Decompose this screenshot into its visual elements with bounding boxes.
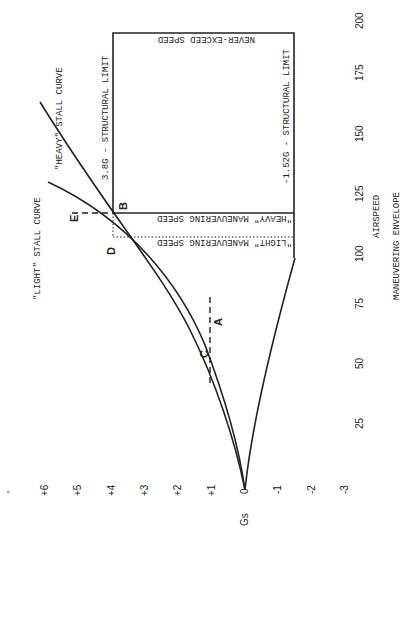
point-b-label: B — [117, 202, 129, 210]
stray-mark: ' — [6, 491, 17, 493]
g-tick: -2 — [306, 485, 317, 494]
never-exceed-speed-label: NEVER-EXCEED SPEED — [158, 34, 255, 44]
g-tick: 0 — [239, 488, 250, 494]
airspeed-tick: 150 — [354, 125, 365, 142]
heavy-maneuvering-speed-label: "HEAVY" MANEUVERING SPEED — [157, 213, 292, 223]
g-tick: +2 — [172, 484, 183, 496]
positive-structural-limit-label: 3.8G - STRUCTURAL LIMIT — [101, 55, 111, 180]
g-axis-label: Gs — [239, 513, 250, 526]
g-tick: +3 — [139, 484, 150, 496]
airspeed-tick: 175 — [354, 64, 365, 81]
maneuvering-envelope-chart: A B C D E "LIGHT" STALL CURVE "HEAVY" ST… — [0, 0, 407, 620]
g-tick: -3 — [339, 485, 350, 494]
point-e-label: E — [68, 215, 80, 222]
airspeed-tick: 50 — [354, 357, 365, 369]
airspeed-tick: 125 — [354, 185, 365, 202]
g-tick: +6 — [39, 484, 50, 496]
airspeed-axis-label: AIRSPEED — [372, 195, 382, 238]
light-maneuvering-speed-label: "LIGHT" MANEUVERING SPEED — [157, 237, 292, 247]
light-stall-curve — [40, 102, 245, 490]
heavy-stall-curve — [48, 182, 245, 490]
point-a-label: A — [212, 318, 224, 326]
airspeed-tick: 200 — [354, 12, 365, 29]
airspeed-tick: 25 — [354, 417, 365, 429]
point-d-label: D — [105, 247, 117, 255]
chart-title: MANEUVERING ENVELOPE — [392, 192, 402, 300]
envelope-boundary — [113, 33, 294, 258]
airspeed-tick: 75 — [354, 297, 365, 309]
point-c-label: C — [198, 350, 210, 358]
g-tick: -1 — [272, 485, 283, 494]
g-tick: +4 — [106, 484, 117, 496]
g-tick: +1 — [206, 484, 217, 496]
light-stall-curve-label: "LIGHT" STALL CURVE — [33, 197, 43, 300]
airspeed-axis-ticks: 25 50 75 100 125 150 175 200 — [354, 12, 365, 429]
airspeed-tick: 100 — [354, 245, 365, 262]
g-tick: +5 — [72, 484, 83, 496]
g-axis-ticks: +6 +5 +4 +3 +2 +1 0 -1 -2 -3 — [39, 484, 350, 496]
heavy-stall-curve-label: "HEAVY" STALL CURVE — [55, 67, 65, 170]
negative-stall-curve — [245, 258, 295, 490]
negative-structural-limit-label: -1.52G - STRUCTURAL LIMIT — [282, 48, 292, 184]
